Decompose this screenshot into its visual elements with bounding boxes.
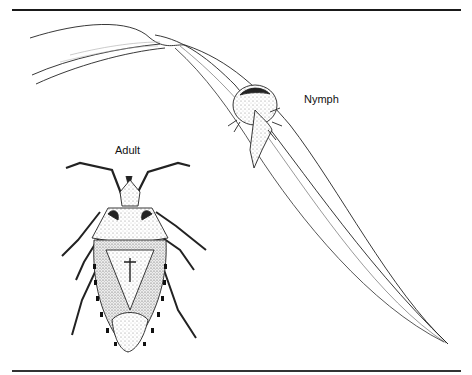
adult-illustration bbox=[62, 163, 206, 352]
illustration bbox=[0, 0, 472, 375]
nymph-illustration bbox=[228, 85, 282, 168]
nymph-label: Nymph bbox=[304, 93, 339, 105]
bottom-rule bbox=[12, 370, 461, 372]
grass-blade bbox=[30, 24, 448, 344]
adult-label: Adult bbox=[115, 144, 140, 156]
